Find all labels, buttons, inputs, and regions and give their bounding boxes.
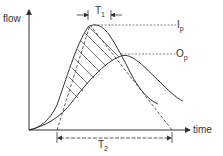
t2-label: T2 xyxy=(98,140,108,150)
y-axis-label: flow xyxy=(3,14,21,24)
t2-dimension xyxy=(57,132,172,143)
outflow-curve xyxy=(29,55,183,130)
x-axis-label: time xyxy=(193,125,212,135)
hydrograph-diagram xyxy=(0,0,223,156)
op-label: Op xyxy=(176,49,188,59)
t1-label: T1 xyxy=(95,6,105,16)
storage-hatch xyxy=(40,0,162,150)
ip-label: Ip xyxy=(177,20,184,30)
